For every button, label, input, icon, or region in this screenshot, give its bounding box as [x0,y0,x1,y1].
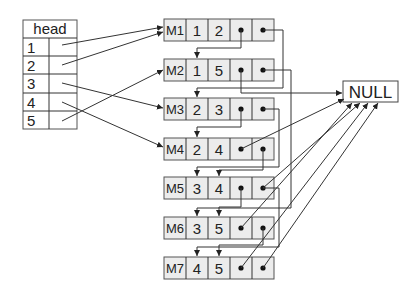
node-a: 3 [193,180,201,197]
null-box: NULL [343,81,398,102]
node-a: 1 [193,62,201,79]
node-M3: M3 2 3 [164,98,274,120]
node-a: 4 [193,260,201,277]
head-row-1: 1 [27,39,35,56]
node-id: M7 [166,261,184,276]
node-M7: M7 4 5 [164,257,274,279]
node-b: 3 [215,101,223,118]
head-title: head [33,20,66,37]
node-id: M1 [166,23,184,38]
node-id: M4 [166,142,184,157]
orthogonal-list-diagram: head 1 2 3 4 5 M1 1 2 M2 1 5 M3 2 3 M4 [0,0,420,293]
node-id: M6 [166,221,184,236]
node-id: M5 [166,181,184,196]
head-table: head 1 2 3 4 5 [23,20,77,129]
node-M6: M6 3 5 [164,217,274,239]
node-b: 4 [215,180,223,197]
node-a: 2 [193,101,201,118]
head-row-4: 4 [27,94,35,111]
node-b: 2 [215,22,223,39]
node-id: M2 [166,63,184,78]
node-b: 5 [215,220,223,237]
node-M1: M1 1 2 [164,19,274,41]
node-M2: M2 1 5 [164,59,274,81]
head-row-5: 5 [27,112,35,129]
head-row-3: 3 [27,75,35,92]
node-a: 2 [193,141,201,158]
head-row-2: 2 [27,57,35,74]
node-b: 5 [215,260,223,277]
node-a: 3 [193,220,201,237]
node-id: M3 [166,102,184,117]
null-label: NULL [349,83,392,102]
node-b: 5 [215,62,223,79]
node-M5: M5 3 4 [164,177,274,199]
node-b: 4 [215,141,223,158]
node-a: 1 [193,22,201,39]
